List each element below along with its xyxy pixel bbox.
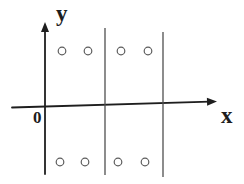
figure-stage: y x 0 [0, 0, 244, 184]
origin-label: 0 [33, 109, 42, 126]
y-axis-label: y [56, 2, 68, 25]
x-axis-label: x [221, 104, 233, 127]
figure-canvas [0, 0, 244, 184]
